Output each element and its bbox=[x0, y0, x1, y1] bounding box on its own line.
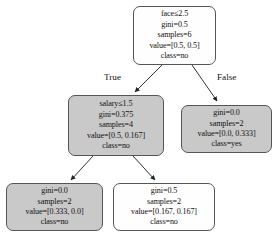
node-right-leaf-line-2: value=[0.0, 0.333] bbox=[197, 129, 255, 139]
node-right-leaf-line-1: samples=2 bbox=[210, 119, 244, 129]
node-middle-leaf-line-3: class=no bbox=[150, 217, 178, 227]
node-root-line-0: face≤2.5 bbox=[161, 9, 188, 19]
edge-root-to-left bbox=[135, 65, 162, 92]
decision-tree-diagram: face≤2.5 gini=0.5 samples=6 value=[0.5, … bbox=[0, 0, 279, 241]
node-root-line-2: samples=6 bbox=[158, 30, 192, 40]
node-salary-line-2: samples=4 bbox=[99, 120, 133, 130]
node-salary-line-4: class=no bbox=[102, 141, 130, 151]
edge-label-false: False bbox=[217, 72, 236, 82]
tree-node-middle-leaf: gini=0.5 samples=2 value=[0.167, 0.167] … bbox=[113, 183, 215, 231]
node-left-leaf-line-0: gini=0.0 bbox=[41, 186, 67, 196]
tree-node-right-leaf: gini=0.0 samples=2 value=[0.0, 0.333] cl… bbox=[181, 105, 272, 153]
edge-root-to-right bbox=[192, 65, 217, 101]
node-salary-line-3: value=[0.5, 0.167] bbox=[87, 131, 145, 141]
node-salary-line-1: gini=0.375 bbox=[99, 110, 133, 120]
tree-node-root: face≤2.5 gini=0.5 samples=6 value=[0.5, … bbox=[133, 6, 216, 65]
node-root-line-4: class=no bbox=[161, 51, 189, 61]
node-right-leaf-line-3: class=yes bbox=[211, 139, 241, 149]
node-root-line-1: gini=0.5 bbox=[161, 20, 187, 30]
node-left-leaf-line-3: class=no bbox=[41, 217, 69, 227]
edge-left-to-leftleft bbox=[71, 156, 93, 180]
edge-label-true: True bbox=[104, 72, 121, 82]
node-middle-leaf-line-2: value=[0.167, 0.167] bbox=[131, 207, 197, 217]
node-right-leaf-line-0: gini=0.0 bbox=[213, 108, 239, 118]
tree-node-salary: salary≤1.5 gini=0.375 samples=4 value=[0… bbox=[68, 95, 164, 156]
node-root-line-3: value=[0.5, 0.5] bbox=[149, 41, 199, 51]
edge-left-to-leftright bbox=[133, 156, 155, 180]
node-middle-leaf-line-0: gini=0.5 bbox=[151, 186, 177, 196]
node-middle-leaf-line-1: samples=2 bbox=[147, 197, 181, 207]
node-left-leaf-line-2: value=[0.333, 0.0] bbox=[25, 207, 83, 217]
tree-node-left-leaf: gini=0.0 samples=2 value=[0.333, 0.0] cl… bbox=[6, 183, 103, 231]
node-salary-line-0: salary≤1.5 bbox=[100, 99, 133, 109]
node-left-leaf-line-1: samples=2 bbox=[38, 197, 72, 207]
